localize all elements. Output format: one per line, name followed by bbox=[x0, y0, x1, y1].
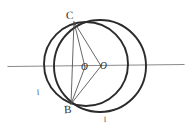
horizontal-axis-line bbox=[8, 65, 184, 67]
center-label-right-O: O bbox=[100, 62, 107, 72]
center-label-left-O: O bbox=[81, 63, 88, 73]
chord-B-to-O1 bbox=[71, 67, 85, 104]
chord-C-to-O2 bbox=[74, 22, 101, 66]
point-label-C: C bbox=[66, 10, 74, 21]
chord-C-to-B bbox=[71, 22, 74, 104]
chord-C-to-O1 bbox=[74, 22, 85, 67]
point-label-B: B bbox=[64, 104, 72, 115]
geometry-figure-canvas: C B O O l l bbox=[0, 0, 192, 133]
geometry-diagram-svg bbox=[0, 0, 192, 133]
